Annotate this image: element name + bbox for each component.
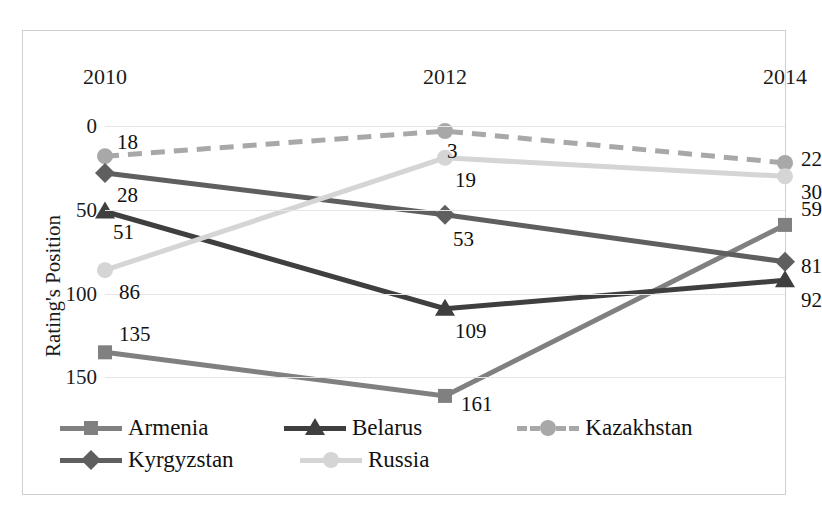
legend-label: Belarus <box>352 415 422 441</box>
data-point-label: 161 <box>461 391 493 416</box>
data-point-label: 22 <box>801 146 822 171</box>
chart-legend: ArmeniaBelarusKazakhstanKyrgyzstanRussia <box>60 415 760 479</box>
data-point-marker <box>540 420 556 436</box>
y-axis-title: Rating's Position <box>41 215 66 357</box>
legend-item-armenia[interactable]: Armenia <box>60 415 284 441</box>
y-axis-tick-label: 50 <box>76 197 97 222</box>
legend-marker-icon <box>320 449 342 471</box>
y-axis-tick-label: 0 <box>87 114 98 139</box>
data-point-marker <box>97 262 113 278</box>
gridline <box>105 126 785 127</box>
legend-key-russia <box>300 451 362 469</box>
data-point-label: 53 <box>453 226 474 251</box>
data-point-label: 18 <box>117 130 138 155</box>
data-point-label: 51 <box>113 219 134 244</box>
data-point-label: 81 <box>801 253 822 278</box>
legend-label: Kazakhstan <box>585 415 692 441</box>
x-axis-tick-label: 2012 <box>423 64 467 90</box>
legend-marker-icon <box>304 417 326 439</box>
data-point-marker <box>777 168 793 184</box>
data-point-marker <box>435 205 455 225</box>
legend-item-kyrgyzstan[interactable]: Kyrgyzstan <box>60 447 300 473</box>
data-point-label: 30 <box>801 180 822 205</box>
y-axis-tick-label: 150 <box>66 365 98 390</box>
gridline <box>105 210 785 211</box>
data-point-marker <box>97 148 113 164</box>
legend-key-kyrgyzstan <box>60 451 122 469</box>
legend-marker-icon <box>80 417 102 439</box>
data-point-label: 19 <box>455 167 476 192</box>
series-kyrgyzstan <box>95 163 795 272</box>
data-point-marker <box>438 389 452 403</box>
data-point-label: 3 <box>447 139 458 164</box>
legend-item-kazakhstan[interactable]: Kazakhstan <box>517 415 760 441</box>
x-axis-tick-label: 2014 <box>763 64 807 90</box>
legend-label: Russia <box>368 447 429 473</box>
data-point-marker <box>778 218 792 232</box>
data-point-marker <box>81 450 101 470</box>
legend-item-russia[interactable]: Russia <box>300 447 550 473</box>
legend-key-kazakhstan <box>517 419 579 437</box>
data-point-marker <box>98 345 112 359</box>
data-point-marker <box>305 418 325 435</box>
legend-row: ArmeniaBelarusKazakhstan <box>60 415 760 441</box>
data-point-marker <box>95 163 115 183</box>
data-point-label: 92 <box>801 288 822 313</box>
legend-label: Armenia <box>128 415 208 441</box>
x-axis-tick-label: 2010 <box>83 64 127 90</box>
legend-row: KyrgyzstanRussia <box>60 447 760 473</box>
data-point-label: 28 <box>117 182 138 207</box>
legend-label: Kyrgyzstan <box>128 447 234 473</box>
data-point-marker <box>323 452 339 468</box>
data-point-label: 109 <box>455 318 487 343</box>
data-point-label: 86 <box>119 280 140 305</box>
data-point-marker <box>775 252 795 272</box>
legend-marker-icon <box>80 449 102 471</box>
data-point-label: 135 <box>119 322 151 347</box>
legend-marker-icon <box>537 417 559 439</box>
y-axis-tick-label: 100 <box>66 281 98 306</box>
series-lines <box>105 126 785 411</box>
legend-key-armenia <box>60 419 122 437</box>
gridline <box>105 294 785 295</box>
data-point-marker <box>84 421 98 435</box>
legend-key-belarus <box>284 419 346 437</box>
legend-item-belarus[interactable]: Belarus <box>284 415 517 441</box>
plot-area: 0501001502010201220141351615951109921832… <box>105 126 785 411</box>
gridline <box>105 377 785 378</box>
